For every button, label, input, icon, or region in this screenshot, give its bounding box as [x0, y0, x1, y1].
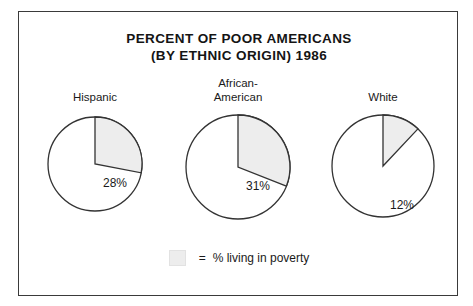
pie-chart-white: White 12%: [313, 74, 453, 223]
pie-graphic-hispanic: 28%: [25, 109, 165, 219]
pie-graphic-white: 12%: [313, 109, 453, 223]
chart-title: PERCENT OF POOR AMERICANS (BY ETHNIC ORI…: [19, 30, 459, 64]
pie-label-african-american: African- American: [168, 74, 308, 104]
pie-value-hispanic: 28%: [103, 176, 127, 190]
pie-wedge-hispanic: [95, 117, 142, 173]
pie-label-line: White: [368, 91, 397, 105]
pie-label-line: American: [214, 91, 263, 105]
pie-label-white: White: [313, 74, 453, 104]
pie-graphic-african-american: 31%: [168, 109, 308, 225]
pie-chart-african-american: African- American 31%: [168, 74, 308, 225]
pie-charts-row: Hispanic 28% African- American: [19, 74, 459, 249]
legend-equals-sign: =: [199, 251, 206, 265]
chart-figure: PERCENT OF POOR AMERICANS (BY ETHNIC ORI…: [0, 0, 473, 306]
pie-svg-white: 12%: [326, 109, 440, 223]
legend-label-poverty: % living in poverty: [213, 251, 310, 265]
title-line-2: (BY ETHNIC ORIGIN) 1986: [19, 47, 459, 64]
pie-svg-african-american: 31%: [180, 109, 296, 225]
pie-value-white: 12%: [390, 198, 414, 212]
pie-chart-hispanic: Hispanic 28%: [25, 74, 165, 219]
pie-svg-hispanic: 28%: [40, 109, 150, 219]
legend-swatch-poverty: [169, 250, 186, 266]
pie-label-line: African-: [218, 77, 258, 91]
chart-legend: = % living in poverty: [19, 250, 459, 266]
pie-value-african-american: 31%: [246, 179, 270, 193]
pie-label-hispanic: Hispanic: [25, 74, 165, 104]
chart-frame: PERCENT OF POOR AMERICANS (BY ETHNIC ORI…: [18, 11, 458, 296]
pie-label-line: Hispanic: [73, 91, 117, 105]
title-line-1: PERCENT OF POOR AMERICANS: [19, 30, 459, 47]
